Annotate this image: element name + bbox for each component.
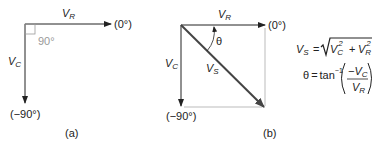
caption-a: (a) (65, 127, 78, 139)
diagram-b: θ VR VC VS (0°) (−90°) (b) (165, 8, 286, 139)
right-angle-marker (25, 24, 35, 34)
vc-label-b: VC (165, 57, 178, 71)
vs-vector (181, 25, 264, 107)
phasor-diagrams: VR VC 90° (0°) (−90°) (a) θ VR VC VS (0°… (0, 0, 372, 151)
theta-formula-lhs: θ=tan−1 (303, 67, 343, 81)
neg90-degree-label-a: (−90°) (10, 108, 40, 120)
diagram-a: VR VC 90° (0°) (−90°) (a) (8, 7, 132, 139)
vr-squared: VR2 (358, 39, 371, 57)
vs-formula-lhs: VS (296, 43, 309, 57)
vs-formula-eq: = (313, 43, 319, 55)
zero-degree-label-b: (0°) (268, 19, 286, 31)
vc-label-a: VC (8, 55, 21, 69)
theta-arc (207, 27, 214, 51)
formulas: VS = VC2 + VR2 θ=tan−1 −VC VR (296, 38, 372, 95)
vr-label-a: VR (62, 7, 75, 21)
fraction-denominator: VR (352, 81, 365, 95)
fraction-numerator: −VC (348, 65, 368, 79)
vc-squared: VC2 (330, 39, 343, 57)
caption-b: (b) (263, 127, 276, 139)
angle-90-label: 90° (38, 35, 55, 47)
neg90-degree-label-b: (−90°) (166, 110, 196, 122)
vr-label-b: VR (218, 8, 231, 22)
plus-sign: + (349, 43, 355, 55)
vs-label-b: VS (206, 62, 219, 76)
zero-degree-label-a: (0°) (114, 18, 132, 30)
theta-label: θ (216, 35, 222, 47)
right-paren (368, 63, 372, 94)
